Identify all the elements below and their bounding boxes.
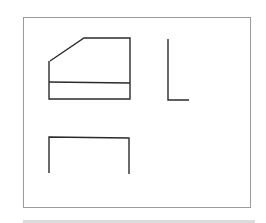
front-view-outline xyxy=(49,38,130,99)
front-view-inner-line xyxy=(49,82,130,83)
top-view-outline xyxy=(49,137,129,174)
side-view xyxy=(168,39,189,100)
projection-drawing xyxy=(0,0,266,223)
drawing-frame xyxy=(24,18,251,208)
bottom-divider-strip xyxy=(23,220,255,223)
drawing-canvas xyxy=(0,0,266,223)
side-view-outline xyxy=(168,39,189,100)
front-view xyxy=(49,38,130,99)
top-view xyxy=(49,137,129,174)
